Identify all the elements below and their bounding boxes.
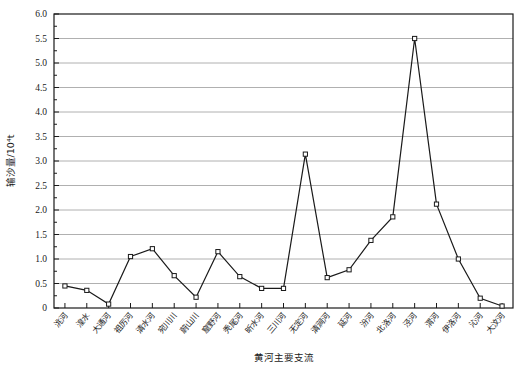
y-tick-label: 4.5 (35, 83, 47, 93)
data-point-marker (456, 257, 460, 261)
y-tick-label: 1.5 (35, 230, 47, 240)
x-tick-label: 秃尾河 (221, 311, 244, 336)
x-tick-label: 祖厉河 (112, 311, 135, 336)
y-tick-label: 5.5 (35, 34, 47, 44)
x-tick-label: 伊洛河 (440, 311, 463, 336)
gridlines-group (54, 14, 513, 284)
data-point-marker (194, 295, 198, 299)
data-point-marker (150, 247, 154, 251)
data-point-marker (500, 304, 504, 308)
x-tick-label: 北洛河 (374, 311, 397, 336)
y-tick-label: 6.0 (35, 9, 47, 19)
chart-svg: 00.51.01.52.02.53.03.54.04.55.05.56.0 洮河… (0, 0, 528, 372)
x-axis-tick-labels-group: 洮河湟水大通河祖厉河清水河宛川川蔚山川窟野河秃尾河昕水河三川河无定河清涧河延河汾… (52, 311, 507, 336)
y-tick-label: 1.0 (35, 254, 47, 264)
x-tick-label: 窟野河 (199, 311, 222, 336)
data-point-marker (238, 275, 242, 279)
data-point-marker (434, 202, 438, 206)
y-tick-label: 0.5 (35, 279, 47, 289)
data-point-marker (63, 284, 67, 288)
data-series-line (65, 39, 502, 307)
x-tick-label: 蔚山川 (178, 311, 201, 336)
y-axis-title: 输沙量/10⁴t (5, 134, 16, 187)
x-axis-title: 黄河主要支流 (254, 352, 314, 363)
data-point-marker (172, 274, 176, 278)
data-point-marker (369, 238, 373, 242)
data-point-marker (478, 296, 482, 300)
x-tick-label: 汾河 (358, 311, 376, 330)
y-tick-label: 2.0 (35, 205, 47, 215)
data-point-marker (347, 268, 351, 272)
y-tick-label: 4.0 (35, 107, 47, 117)
data-series-markers (63, 36, 504, 308)
x-tick-label: 昕水河 (243, 311, 266, 336)
x-tick-label: 渭河 (423, 311, 441, 330)
x-tick-label: 无定河 (287, 311, 310, 336)
x-tick-label: 清涧河 (309, 311, 332, 336)
data-point-marker (413, 36, 417, 40)
data-point-marker (260, 286, 264, 290)
x-tick-label: 清水河 (134, 311, 157, 336)
y-axis-tick-labels-group: 00.51.01.52.02.53.03.54.04.55.05.56.0 (35, 9, 47, 313)
y-tick-label: 5.0 (35, 58, 47, 68)
y-tick-label: 0 (42, 303, 47, 313)
x-tick-label: 洮河 (52, 311, 70, 330)
data-point-marker (107, 302, 111, 306)
x-tick-label: 宛川川 (156, 311, 179, 336)
series-polyline (65, 39, 502, 307)
y-tick-label: 3.0 (35, 156, 47, 166)
x-tick-label: 沁河 (467, 311, 485, 330)
data-point-marker (128, 254, 132, 258)
data-point-marker (216, 250, 220, 254)
y-major-ticks-group (54, 14, 59, 308)
x-tick-label: 大汶河 (484, 311, 507, 336)
data-point-marker (325, 276, 329, 280)
data-point-marker (85, 288, 89, 292)
x-tick-label: 大通河 (90, 311, 113, 336)
data-point-marker (303, 152, 307, 156)
x-tick-label: 三川河 (265, 311, 288, 336)
y-tick-label: 2.5 (35, 181, 47, 191)
data-point-marker (281, 286, 285, 290)
sediment-load-line-chart: 00.51.01.52.02.53.03.54.04.55.05.56.0 洮河… (0, 0, 528, 372)
x-tick-label: 泾河 (401, 311, 419, 330)
x-ticks-group (65, 303, 502, 308)
data-point-marker (391, 215, 395, 219)
x-tick-label: 湟水 (73, 311, 91, 330)
y-tick-label: 3.5 (35, 132, 47, 142)
x-tick-label: 延河 (336, 311, 354, 330)
